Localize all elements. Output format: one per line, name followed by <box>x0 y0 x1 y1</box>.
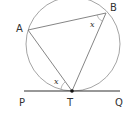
point-T <box>70 89 74 93</box>
chord-AT <box>28 30 72 91</box>
geometry-diagram: A B T P Q x x <box>0 0 133 122</box>
label-Q: Q <box>115 97 123 108</box>
angle-label-T: x <box>54 77 59 86</box>
label-A: A <box>16 23 23 34</box>
angle-arc-B <box>97 15 102 21</box>
label-P: P <box>19 97 25 108</box>
label-T: T <box>66 97 74 108</box>
angle-label-B: x <box>90 20 95 29</box>
chord-BT <box>72 13 106 91</box>
label-B: B <box>110 2 117 13</box>
